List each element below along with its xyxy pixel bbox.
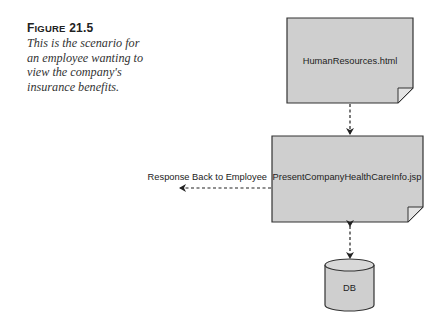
db-label: DB [343,283,356,293]
html-page-node: HumanResources.html [287,18,413,103]
jsp-page-node: PresentCompanyHealthCareInfo.jsp [272,136,423,222]
html-page-label: HumanResources.html [303,56,398,66]
flow-diagram: HumanResources.html PresentCompanyHealth… [0,0,445,329]
jsp-page-label: PresentCompanyHealthCareInfo.jsp [273,172,422,182]
response-label: Response Back to Employee [148,172,267,182]
db-node: DB [325,259,374,311]
